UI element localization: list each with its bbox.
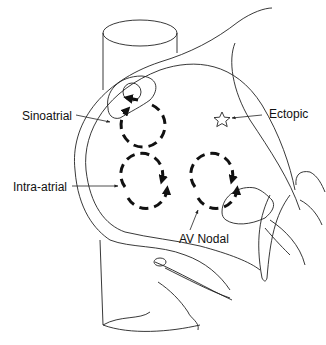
heart-diagram (0, 0, 326, 345)
right-atrium-wall (74, 8, 295, 290)
sinoatrial-circuit (121, 98, 165, 147)
intra-atrial-label: Intra-atrial (13, 181, 67, 193)
av-nodal-label: AV Nodal (179, 233, 229, 245)
ectopic-label: Ectopic (269, 108, 308, 120)
av-nodal-circuit (191, 153, 237, 208)
sinoatrial-label: Sinoatrial (22, 110, 72, 122)
intra-atrial-circuit (121, 153, 167, 208)
coronary-sinus (154, 258, 232, 330)
av-nodal-pointer (190, 210, 198, 230)
septum-lines (232, 43, 325, 281)
inferior-vena-cava (100, 240, 200, 331)
ectopic-star-icon (214, 112, 230, 127)
sinoatrial-pointer (76, 115, 110, 122)
